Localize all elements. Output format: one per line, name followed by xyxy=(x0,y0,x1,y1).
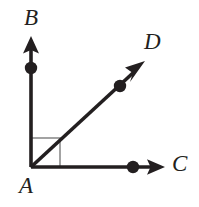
vertex-label-a: A xyxy=(19,174,33,197)
vertex-label-c: C xyxy=(172,152,187,175)
vertex-label-b: B xyxy=(24,6,38,29)
point-marker-on-ac xyxy=(127,161,139,173)
ray-ab xyxy=(23,36,39,167)
point-marker-on-ad xyxy=(114,80,126,92)
point-marker-on-ab xyxy=(25,62,37,74)
ray-ac xyxy=(31,159,165,175)
ray-ad xyxy=(31,61,145,167)
geometry-figure: B D C A xyxy=(0,0,199,207)
vertex-label-d: D xyxy=(144,30,161,53)
